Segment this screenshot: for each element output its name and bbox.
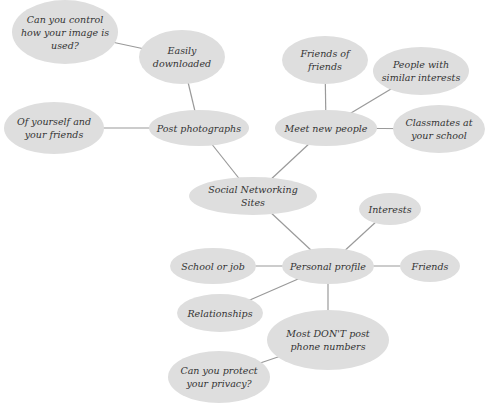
node-label: Easily downloaded xyxy=(145,44,219,70)
node-easily-downloaded: Easily downloaded xyxy=(139,30,225,84)
node-similar-interests: People with similar interests xyxy=(373,47,469,95)
node-school-or-job: School or job xyxy=(170,248,256,284)
node-phone-numbers: Most DON'T post phone numbers xyxy=(267,310,389,370)
node-label: Meet new people xyxy=(285,122,368,135)
node-label: Can you control how your image is used? xyxy=(18,13,112,52)
node-label: Friends xyxy=(412,260,449,273)
node-post-photographs: Post photographs xyxy=(149,110,249,146)
node-friends: Friends xyxy=(400,250,460,282)
node-interests: Interests xyxy=(359,193,421,225)
node-label: Classmates at your school xyxy=(399,116,479,142)
node-classmates: Classmates at your school xyxy=(393,105,485,153)
node-social-networking-sites: Social Networking Sites xyxy=(189,177,317,215)
node-personal-profile: Personal profile xyxy=(282,248,374,284)
node-label: Friends of friends xyxy=(288,47,362,73)
node-label: People with similar interests xyxy=(379,58,463,84)
node-label: Interests xyxy=(368,203,411,216)
node-label: Relationships xyxy=(187,307,252,320)
node-meet-new-people: Meet new people xyxy=(275,110,377,146)
node-label: Social Networking Sites xyxy=(195,183,311,209)
node-control-image: Can you control how your image is used? xyxy=(12,0,118,64)
node-yourself-friends: Of yourself and your friends xyxy=(4,102,104,154)
node-label: Post photographs xyxy=(157,122,241,135)
node-protect-privacy: Can you protect your privacy? xyxy=(168,351,270,403)
node-label: Most DON'T post phone numbers xyxy=(273,327,383,353)
node-label: School or job xyxy=(181,260,244,273)
node-label: Can you protect your privacy? xyxy=(174,364,264,390)
node-label: Personal profile xyxy=(290,260,366,273)
node-friends-of-friends: Friends of friends xyxy=(282,36,368,84)
node-relationships: Relationships xyxy=(177,294,263,332)
node-label: Of yourself and your friends xyxy=(10,115,98,141)
mind-map: Social Networking Sites Post photographs… xyxy=(0,0,498,403)
